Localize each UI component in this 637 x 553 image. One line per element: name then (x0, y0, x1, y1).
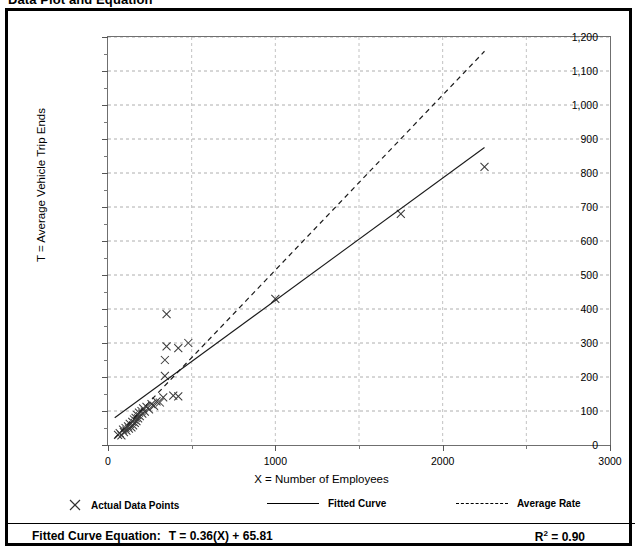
legend-item-average-rate: Average Rate (456, 498, 581, 509)
y-tick-minor (104, 224, 108, 225)
y-tick-label: 1,000 (558, 100, 598, 110)
y-axis-label: T = Average Vehicle Trip Ends (35, 80, 47, 290)
y-tick-mark (102, 377, 108, 378)
legend-item-actual-data-points: Actual Data Points (68, 498, 179, 512)
equation-expression: T = 0.36(X) + 65.81 (169, 529, 273, 543)
y-tick-minor (104, 292, 108, 293)
y-tick-mark (102, 105, 108, 106)
plot-canvas (108, 37, 610, 445)
x-tick-label: 0 (78, 455, 138, 467)
x-tick-minor (359, 445, 360, 449)
y-tick-minor (104, 122, 108, 123)
equation-row: Fitted Curve Equation:T = 0.36(X) + 65.8… (8, 524, 635, 546)
legend-item-fitted-curve: Fitted Curve (267, 498, 386, 509)
y-tick-label: 500 (558, 270, 598, 280)
x-tick-minor (192, 445, 193, 449)
y-tick-minor (104, 156, 108, 157)
x-tick-label: 3000 (580, 455, 637, 467)
y-tick-mark (102, 343, 108, 344)
y-tick-label: 200 (558, 372, 598, 382)
fitted-curve-equation: Fitted Curve Equation:T = 0.36(X) + 65.8… (32, 529, 273, 543)
y-tick-minor (104, 360, 108, 361)
y-tick-minor (104, 258, 108, 259)
dashed-line-icon (456, 503, 508, 504)
legend-label: Fitted Curve (328, 498, 386, 509)
y-tick-minor (104, 54, 108, 55)
y-tick-mark (102, 139, 108, 140)
x-tick-mark (610, 445, 611, 451)
y-tick-label: 0 (558, 440, 598, 450)
r-symbol: R (535, 530, 544, 544)
y-tick-mark (102, 309, 108, 310)
legend-label: Average Rate (517, 498, 581, 509)
x-marker-icon (68, 498, 82, 512)
r-squared-value: R2 = 0.90 (535, 529, 585, 544)
legend-label: Actual Data Points (91, 500, 179, 511)
r-value: = 0.90 (548, 530, 585, 544)
x-tick-mark (443, 445, 444, 451)
x-tick-minor (526, 445, 527, 449)
y-tick-label: 300 (558, 338, 598, 348)
y-tick-label: 400 (558, 304, 598, 314)
y-tick-mark (102, 207, 108, 208)
x-tick-mark (275, 445, 276, 451)
y-tick-minor (104, 326, 108, 327)
y-tick-label: 900 (558, 134, 598, 144)
y-tick-mark (102, 241, 108, 242)
y-tick-label: 700 (558, 202, 598, 212)
chart-area: T = Average Vehicle Trip Ends 0100200300… (8, 11, 635, 471)
figure-panel: T = Average Vehicle Trip Ends 0100200300… (5, 8, 632, 546)
figure-root: Data Plot and Equation T = Average Vehic… (0, 0, 637, 553)
solid-line-icon (267, 503, 319, 504)
y-tick-mark (102, 173, 108, 174)
y-tick-label: 600 (558, 236, 598, 246)
y-tick-minor (104, 394, 108, 395)
y-tick-minor (104, 88, 108, 89)
chart-legend: Actual Data Points Fitted Curve Average … (8, 498, 635, 520)
x-axis-label: X = Number of Employees (8, 473, 635, 485)
y-tick-label: 800 (558, 168, 598, 178)
x-tick-mark (108, 445, 109, 451)
equation-label: Fitted Curve Equation: (32, 529, 161, 543)
y-tick-label: 1,100 (558, 66, 598, 76)
y-tick-mark (102, 37, 108, 38)
y-tick-mark (102, 71, 108, 72)
y-tick-mark (102, 411, 108, 412)
plot-frame: 01002003004005006007008009001,0001,1001,… (107, 36, 611, 446)
x-tick-label: 2000 (413, 455, 473, 467)
y-tick-minor (104, 190, 108, 191)
y-tick-mark (102, 275, 108, 276)
y-tick-label: 1,200 (558, 32, 598, 42)
figure-title: Data Plot and Equation (8, 0, 152, 7)
x-tick-label: 1000 (245, 455, 305, 467)
y-tick-minor (104, 428, 108, 429)
y-tick-label: 100 (558, 406, 598, 416)
